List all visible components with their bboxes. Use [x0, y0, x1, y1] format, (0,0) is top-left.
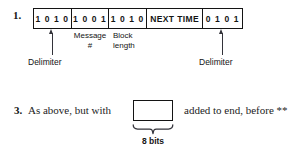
item-3-text-after: added to end, before **: [184, 104, 288, 116]
frame-cell-delimiter-end: 0 1 0 1: [203, 9, 242, 28]
delimiter-left-label: Delimiter: [28, 57, 62, 67]
item-3-text-before: As above, but with: [28, 104, 111, 116]
message-number-label: Message #: [70, 31, 110, 50]
block-length-label-line1: Block: [113, 31, 153, 41]
brace-icon: [132, 124, 174, 135]
block-length-label: Block length: [113, 31, 153, 50]
message-number-label-line1: Message: [70, 31, 110, 41]
figure-canvas: 1. 1 0 1 0 1 0 0 1 1 0 1 0 NEXT TIME 0 1…: [0, 0, 303, 163]
empty-byte-box: [133, 100, 173, 121]
message-number-label-line2: #: [70, 41, 110, 51]
delimiter-left-leader-line: [52, 33, 53, 55]
delimiter-right-label: Delimiter: [199, 57, 233, 67]
frame-cell-payload: NEXT TIME: [147, 9, 203, 28]
item-3-number: 3.: [14, 104, 22, 116]
block-length-label-line2: length: [113, 41, 153, 51]
bit-frame-diagram: 1 0 1 0 1 0 0 1 1 0 1 0 NEXT TIME 0 1 0 …: [33, 8, 243, 29]
frame-cell-message-number: 1 0 0 1: [72, 9, 110, 28]
brace-label-8-bits: 8 bits: [133, 136, 173, 146]
delimiter-right-leader-line: [222, 33, 223, 55]
frame-cell-block-length: 1 0 1 0: [109, 9, 147, 28]
frame-cell-delimiter-start: 1 0 1 0: [34, 9, 72, 28]
item-1-number: 1.: [13, 9, 21, 21]
